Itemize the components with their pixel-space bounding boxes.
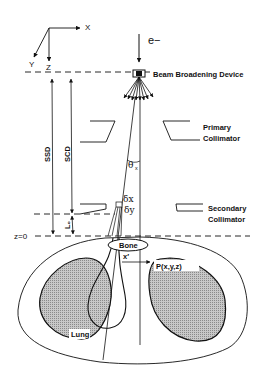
scatter-rays: [124, 77, 153, 100]
secondary-label-1: Secondary: [208, 204, 247, 213]
x-axis-label: X: [85, 23, 91, 32]
primary-collimator: Primary Collimator: [80, 121, 240, 143]
pencil-beam: δx δy: [108, 194, 135, 236]
theta-subscript: x: [135, 165, 138, 171]
x-prime-label: x′: [123, 252, 129, 261]
beam-device-label: Beam Broadening Device: [153, 70, 243, 79]
theta-label: θ: [128, 160, 133, 170]
bone: Bone: [108, 239, 148, 251]
distance-markers: SSD SCD L₀: [43, 79, 73, 234]
primary-label-1: Primary: [203, 123, 232, 132]
z-axis-label: Z: [46, 63, 51, 72]
point-label: P(x,y,z): [156, 262, 182, 271]
y-axis-label: Y: [29, 60, 35, 69]
electron-label: e−: [148, 34, 161, 46]
delta-y-label: δy: [124, 205, 135, 215]
beam-broadening-device: Beam Broadening Device: [133, 70, 243, 79]
delta-x-label: δx: [123, 194, 134, 204]
x-prime-marker: x′: [122, 252, 150, 262]
primary-label-2: Collimator: [203, 134, 240, 143]
electron-source: e−: [139, 34, 161, 62]
electron-beam-diagram: X Y Z e− Beam Broadening Device θ x: [0, 0, 260, 382]
z0-label: z=0: [14, 232, 28, 241]
bone-label: Bone: [119, 241, 138, 250]
lung-label: Lung: [71, 330, 90, 339]
coordinate-axes: X Y Z: [29, 23, 91, 72]
lo-label: L₀: [63, 221, 72, 229]
theta-angle: θ x: [127, 160, 140, 171]
secondary-label-2: Collimator: [208, 215, 245, 224]
scd-label: SCD: [63, 146, 72, 162]
ssd-label: SSD: [43, 146, 52, 162]
